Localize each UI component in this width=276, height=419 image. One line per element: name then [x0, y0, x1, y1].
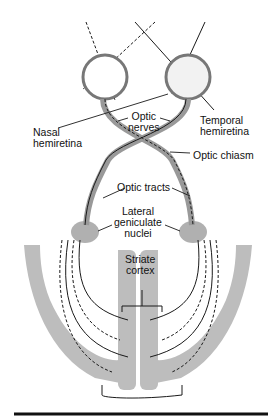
label-line: nuclei [114, 228, 162, 239]
label-line: nerves [128, 122, 160, 133]
label-line: hemiretina [33, 138, 82, 149]
label-line: cortex [125, 265, 155, 276]
label-nasal-hemiretina: Nasal hemiretina [33, 127, 82, 149]
left-eye [83, 55, 127, 99]
label-optic-tracts: Optic tracts [117, 182, 170, 193]
label-lateral-geniculate-nuclei: Lateral geniculate nuclei [114, 206, 162, 239]
label-optic-nerves: Optic nerves [128, 111, 160, 133]
label-optic-chiasm: Optic chiasm [193, 150, 254, 161]
right-eye [166, 55, 210, 99]
label-striate-cortex: Striate cortex [125, 254, 155, 276]
label-temporal-hemiretina: Temporal hemiretina [200, 115, 249, 137]
label-line: hemiretina [200, 126, 249, 137]
